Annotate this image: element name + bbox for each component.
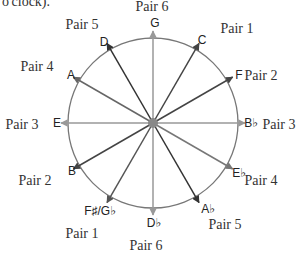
arrow-2: [153, 77, 233, 123]
arrow-1: [153, 43, 199, 123]
arrow-10: [73, 77, 153, 123]
note-label: D: [100, 35, 109, 49]
pair-label: Pair 3: [262, 117, 295, 132]
center-dot: [148, 118, 158, 128]
caption-fragment: o'clock).: [2, 0, 50, 10]
arrow-8: [73, 123, 153, 169]
pair-label: Pair 1: [65, 226, 98, 241]
note-label: A♭: [201, 202, 215, 216]
note-label: B: [68, 164, 76, 178]
pair-label: Pair 6: [129, 238, 162, 253]
note-label: A: [67, 68, 75, 82]
pair-label: Pair 5: [208, 217, 241, 232]
note-label: F: [235, 68, 242, 82]
pair-label: Pair 2: [18, 173, 51, 188]
arrow-7: [107, 123, 153, 203]
note-label: D♭: [147, 216, 161, 230]
circle-of-fifths-diagram: o'clock). GCFB♭E♭A♭D♭F♯/G♭BEAD Pair 6Pai…: [0, 0, 301, 254]
pair-label: Pair 2: [244, 68, 277, 83]
pair-label: Pair 4: [20, 59, 53, 74]
arrow-5: [153, 123, 199, 203]
pair-label: Pair 5: [65, 17, 98, 32]
pair-label: Pair 3: [5, 117, 38, 132]
note-label: E: [53, 116, 61, 130]
note-label: C: [198, 33, 207, 47]
pair-label: Pair 1: [220, 21, 253, 36]
arrow-11: [107, 43, 153, 123]
note-label: F♯/G♭: [84, 204, 116, 218]
arrow-4: [153, 123, 233, 169]
pair-label: Pair 6: [135, 0, 168, 14]
note-label: G: [150, 16, 159, 30]
pair-label: Pair 4: [244, 173, 277, 188]
note-label: B♭: [244, 116, 258, 130]
